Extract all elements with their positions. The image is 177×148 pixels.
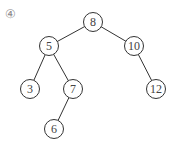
option-label: ④ (5, 7, 16, 21)
node-7: 7 (64, 80, 83, 99)
node-12: 12 (147, 80, 166, 99)
binary-search-tree-diagram: ④ 8 5 10 3 7 (0, 0, 177, 148)
node-7-value: 7 (70, 82, 76, 96)
node-6-value: 6 (51, 122, 57, 136)
node-12-value: 12 (150, 82, 162, 96)
node-3: 3 (21, 80, 40, 99)
node-5: 5 (40, 37, 59, 56)
node-5-value: 5 (46, 39, 52, 53)
node-10: 10 (125, 37, 144, 56)
node-3-value: 3 (27, 82, 33, 96)
node-8-value: 8 (90, 15, 96, 29)
tree-svg: 8 5 10 3 7 12 6 (0, 0, 177, 148)
node-8: 8 (84, 13, 103, 32)
node-10-value: 10 (128, 39, 140, 53)
node-6: 6 (45, 120, 64, 139)
